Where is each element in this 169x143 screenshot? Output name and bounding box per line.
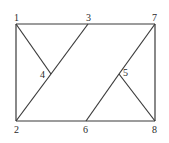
node-label-4: 4 xyxy=(40,69,45,80)
graph-diagram: 1 2 3 4 5 6 7 8 xyxy=(0,0,169,143)
edge-5-6 xyxy=(86,74,119,121)
node-label-1: 1 xyxy=(14,12,19,23)
edge-1-4 xyxy=(16,24,51,74)
node-label-8: 8 xyxy=(152,124,157,135)
node-label-5: 5 xyxy=(123,67,128,78)
edge-4-2 xyxy=(16,74,51,121)
node-label-2: 2 xyxy=(14,124,19,135)
node-label-6: 6 xyxy=(83,124,88,135)
edges xyxy=(16,24,155,121)
edge-5-8 xyxy=(119,74,155,121)
node-label-7: 7 xyxy=(152,12,157,23)
edge-3-4 xyxy=(51,24,88,74)
node-label-3: 3 xyxy=(86,12,91,23)
node-labels: 1 2 3 4 5 6 7 8 xyxy=(14,12,157,135)
